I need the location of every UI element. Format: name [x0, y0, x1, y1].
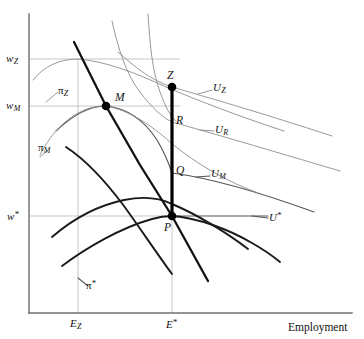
curve-UM-main: U: [211, 167, 219, 179]
y-tick-label-wstar: w*: [7, 210, 19, 222]
x-tick-EZ-main: E: [70, 317, 77, 329]
curve-piZ-sub: Z: [64, 89, 69, 98]
curve-label-pistar: π*: [86, 279, 96, 291]
curve-UR: [112, 21, 340, 171]
curve-UM: [56, 106, 314, 212]
x-tick-Estar-main: E: [166, 318, 173, 330]
curve-UR-main: U: [215, 123, 223, 135]
curve-UR-sub: R: [223, 128, 228, 137]
x-tick-EZ-sub: Z: [77, 322, 82, 331]
x-tick-label-EZ: EZ: [70, 318, 81, 331]
y-tick-label-wM: wM: [6, 100, 20, 113]
figure-root: wZ wM w* EZ E* Employment πZ πM π* UZ UR…: [0, 0, 364, 339]
x-axis-title: Employment: [288, 322, 347, 334]
y-tick-wstar-sup: *: [14, 209, 19, 219]
curve-firm-upper-arc: [66, 147, 172, 274]
leader-piZ: [46, 92, 58, 102]
curve-label-UZ: UZ: [213, 82, 226, 95]
y-tick-wM-sub: M: [13, 104, 20, 113]
y-tick-label-wZ: wZ: [6, 53, 18, 66]
curve-label-piM: πM: [38, 142, 50, 155]
curve-UM-sub: M: [219, 172, 226, 181]
curve-Ustar-main: U: [269, 211, 277, 223]
leader-UZ: [198, 90, 212, 94]
point-label-R: R: [176, 115, 183, 127]
curve-piZ: [33, 59, 284, 131]
point-label-P: P: [164, 222, 171, 234]
curve-UZ-main: U: [213, 81, 221, 93]
curve-label-UR: UR: [215, 124, 228, 137]
curve-piM-sub: M: [44, 146, 51, 155]
curve-label-Ustar: U*: [269, 211, 282, 223]
point-label-Z: Z: [167, 70, 173, 82]
point-P-dot: [168, 212, 177, 221]
curve-pistar-sup: *: [92, 278, 97, 288]
point-Z-dot: [168, 83, 177, 92]
curve-pistar-main: π: [86, 279, 92, 291]
point-label-Q: Q: [176, 165, 184, 177]
x-tick-Estar-sup: *: [173, 317, 178, 327]
x-tick-label-Estar: E*: [166, 318, 177, 330]
point-M-dot: [102, 102, 111, 111]
curve-Ustar-sup: *: [277, 210, 282, 220]
curve-label-UM: UM: [211, 168, 226, 181]
curve-piM-main: π: [38, 141, 44, 153]
point-label-M: M: [115, 92, 125, 104]
curve-UZ-sub: Z: [221, 86, 226, 95]
leader-UM: [196, 176, 210, 177]
y-tick-wZ-sub: Z: [13, 57, 18, 66]
curve-label-piZ: πZ: [58, 85, 68, 98]
curve-piZ-main: π: [58, 84, 64, 96]
